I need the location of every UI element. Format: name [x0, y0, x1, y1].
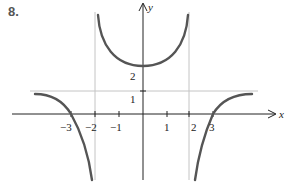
ytick-label-1: 1	[130, 93, 136, 105]
y-axis-label: y	[147, 1, 153, 13]
tick-label-neg3: −3	[60, 121, 72, 133]
x-axis-label: x	[278, 108, 284, 120]
tick-label-3: 3	[209, 121, 215, 133]
tick-label-1: 1	[164, 121, 170, 133]
tick-label-neg1: −1	[110, 121, 122, 133]
ytick-label-2: 2	[130, 70, 136, 82]
rational-function-graph: y x −3 −2 −1 1 2 3 1 2	[0, 0, 289, 182]
tick-label-neg2: −2	[85, 121, 97, 133]
right-branch	[195, 94, 252, 180]
tick-label-2: 2	[191, 121, 197, 133]
left-branch	[35, 94, 92, 180]
